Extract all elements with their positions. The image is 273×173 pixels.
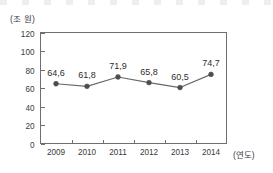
line-chart-plot: 020406080100120 200920102011201220132014… (0, 0, 273, 173)
x-axis-tick-label: 2009 (47, 148, 66, 157)
x-axis-tick-label: 2012 (140, 148, 159, 157)
x-axis-tick-label: 2011 (109, 148, 127, 157)
data-point-marker (147, 80, 152, 85)
x-axis-tick-label: 2010 (78, 148, 97, 157)
value-label-group: 64,661,871,965,860,574,7 (47, 58, 220, 81)
y-axis-tick-label: 120 (21, 30, 35, 39)
y-axis-tick-label: 60 (25, 85, 35, 94)
data-point-value-label: 60,5 (171, 72, 189, 82)
data-point-marker (54, 81, 59, 86)
y-axis-tick-label: 80 (25, 67, 35, 76)
data-point-marker (178, 85, 183, 90)
y-axis-tick-label: 40 (25, 104, 35, 113)
y-axis-tick-label: 100 (21, 48, 35, 57)
data-point-value-label: 71,9 (109, 61, 127, 71)
x-axis-tick-group: 200920102011201220132014 (47, 140, 221, 157)
data-point-marker (116, 75, 121, 80)
y-axis-tick-label: 20 (25, 122, 35, 131)
data-point-marker (85, 84, 90, 89)
y-axis-tick-label: 0 (30, 141, 35, 150)
x-axis-tick-label: 2014 (202, 148, 221, 157)
data-point-value-label: 64,6 (47, 68, 65, 78)
x-axis-tick-label: 2013 (171, 148, 190, 157)
plot-frame (41, 33, 227, 144)
data-point-marker (209, 72, 214, 77)
data-point-value-label: 74,7 (202, 58, 220, 68)
chart-figure: (조 원) (연도) 020406080100120 2009201020112… (0, 0, 273, 173)
data-point-value-label: 65,8 (140, 67, 158, 77)
data-point-value-label: 61,8 (78, 70, 96, 80)
